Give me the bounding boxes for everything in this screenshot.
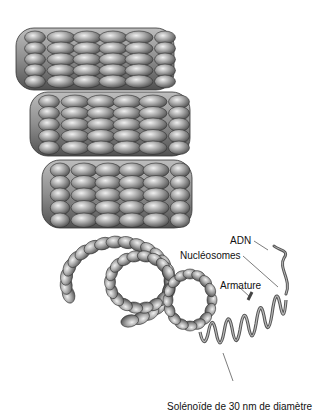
label-adn: ADN	[230, 236, 251, 246]
label-solenoid: Solénoïde de 30 nm de diamètre	[167, 402, 312, 412]
label-nucleosomes: Nucléosomes	[180, 251, 241, 261]
chromatin-diagram: ADN Nucléosomes Armature Solénoïde de 30…	[0, 0, 313, 419]
leader-lines	[223, 241, 278, 381]
label-armature: Armature	[220, 281, 261, 291]
chromatin-illustration	[0, 0, 313, 419]
